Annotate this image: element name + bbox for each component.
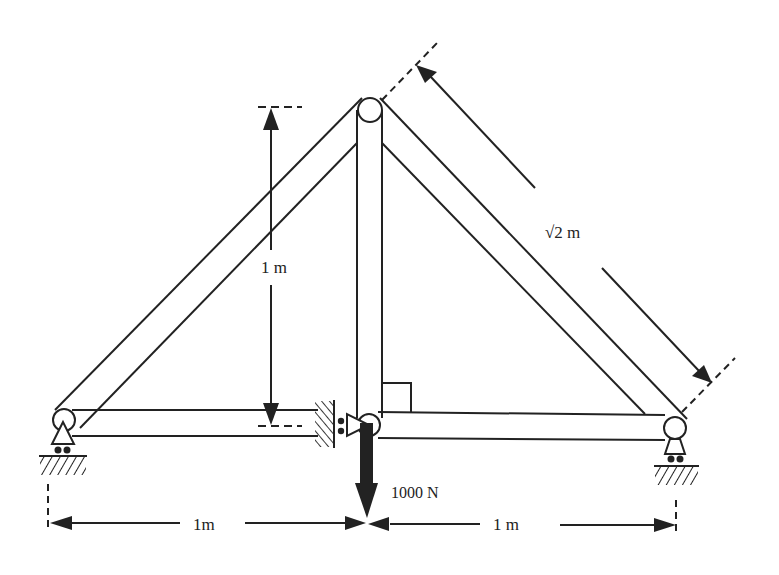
right-diagonal-member	[380, 98, 687, 419]
diagonal-length-label: √2 m	[545, 223, 580, 243]
left-roller-support	[39, 422, 87, 475]
load-arrow	[355, 423, 378, 518]
right-span-label: 1 m	[493, 515, 519, 535]
load-label: 1000 N	[391, 484, 439, 502]
vertical-member	[357, 110, 382, 418]
left-diagonal-member	[55, 98, 362, 428]
apex-joint	[358, 98, 382, 122]
height-label: 1 m	[257, 258, 291, 278]
right-support-joint	[664, 417, 686, 439]
truss-diagram	[0, 0, 779, 575]
left-span-label: 1m	[193, 515, 215, 535]
right-roller-support	[654, 439, 699, 485]
right-angle-marker	[382, 383, 411, 412]
